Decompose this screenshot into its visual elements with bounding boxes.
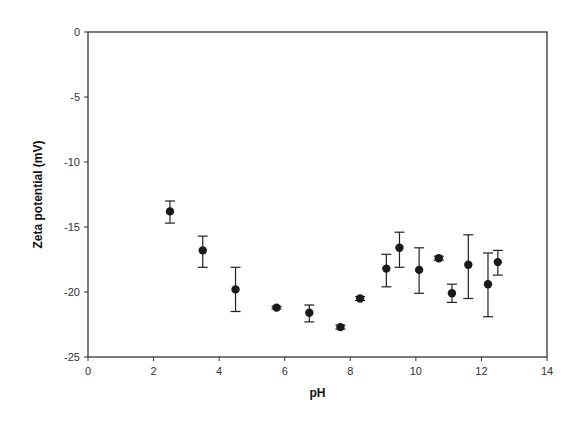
marker-circle (166, 207, 174, 215)
data-point (447, 284, 457, 302)
marker-circle (395, 244, 403, 252)
marker-circle (464, 261, 472, 269)
data-point (394, 232, 404, 267)
data-point (493, 250, 503, 275)
data-point (355, 294, 365, 302)
y-tick-label: -5 (70, 91, 80, 103)
y-axis-title: Zeta potential (mV) (31, 140, 45, 248)
marker-circle (356, 294, 364, 302)
data-point (483, 253, 493, 317)
marker-circle (199, 246, 207, 254)
x-axis-ticks: 02468101214 (85, 357, 553, 377)
marker-circle (272, 303, 280, 311)
y-axis-ticks: 0-5-10-15-20-25 (64, 26, 88, 363)
data-point (335, 323, 345, 331)
y-tick-label: -25 (64, 351, 80, 363)
x-tick-label: 12 (475, 365, 487, 377)
marker-circle (382, 264, 390, 272)
marker-circle (448, 289, 456, 297)
x-tick-label: 2 (151, 365, 157, 377)
data-point (434, 254, 444, 262)
x-tick-label: 8 (347, 365, 353, 377)
marker-circle (231, 285, 239, 293)
marker-circle (435, 254, 443, 262)
x-tick-label: 6 (282, 365, 288, 377)
x-tick-label: 10 (410, 365, 422, 377)
data-point (414, 248, 424, 293)
x-tick-label: 0 (85, 365, 91, 377)
marker-circle (484, 280, 492, 288)
y-tick-label: -10 (64, 156, 80, 168)
marker-circle (415, 266, 423, 274)
zeta-potential-chart: 02468101214 0-5-10-15-20-25 pH Zeta pote… (0, 0, 576, 434)
plot-border (88, 32, 547, 357)
data-point (165, 201, 175, 223)
data-point (272, 303, 282, 311)
data-point (463, 235, 473, 299)
data-points (165, 201, 503, 331)
data-point (381, 254, 391, 286)
x-axis-title: pH (310, 386, 326, 400)
marker-circle (305, 309, 313, 317)
marker-circle (336, 323, 344, 331)
data-point (198, 236, 208, 267)
x-tick-label: 14 (541, 365, 553, 377)
data-point (231, 267, 241, 311)
plot-frame (88, 32, 547, 357)
y-tick-label: -15 (64, 221, 80, 233)
data-point (304, 305, 314, 322)
x-tick-label: 4 (216, 365, 222, 377)
y-tick-label: 0 (74, 26, 80, 38)
y-tick-label: -20 (64, 286, 80, 298)
marker-circle (494, 258, 502, 266)
